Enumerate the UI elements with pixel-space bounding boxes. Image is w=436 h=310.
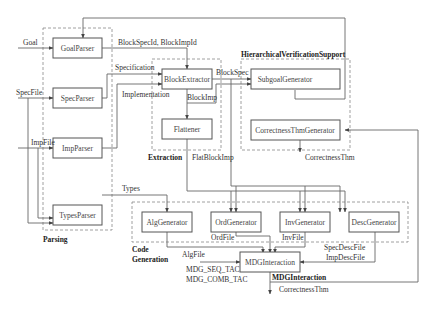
- types-parser-label: TypesParser: [59, 211, 96, 220]
- implementation-label: Implementation: [122, 90, 170, 99]
- alg-generator-label: AlgGenerator: [146, 218, 188, 227]
- impfile-to-types-edge: [38, 148, 53, 218]
- mdg-interaction-label: MDGInteraction: [245, 258, 295, 267]
- blockimp-label: BlockImp: [187, 93, 217, 102]
- specdescfile-label: SpecDescFile: [324, 243, 366, 252]
- types-label: Types: [122, 184, 140, 193]
- subgoal-generator-label: SubgoalGenerator: [258, 75, 313, 84]
- goal-label: Goal: [23, 38, 38, 47]
- blockspec-label: BlockSpec: [216, 68, 249, 77]
- mdg-seq-tac-label: MDG_SEQ_TAC: [186, 265, 240, 274]
- specfile-label: SpecFile: [16, 88, 43, 97]
- spec-parser-label: SpecParser: [61, 94, 95, 103]
- flattener-label: Flattener: [174, 125, 201, 134]
- imp-parser-label: ImpParser: [62, 144, 93, 153]
- mdg-comb-tac-label: MDG_COMB_TAC: [186, 275, 248, 284]
- correctnessthm-top-label: CorrectnessThm: [305, 153, 355, 162]
- correctnessthm-bottom-label: CorrectnessThm: [279, 285, 329, 294]
- correctness-thm-generator-label: CorrectnessThmGenerator: [255, 126, 335, 135]
- ordfile-label: OrdFile: [211, 233, 235, 242]
- architecture-diagram: GoalParser SpecParser ImpParser TypesPar…: [0, 0, 436, 310]
- desc-generator-label: DescGenerator: [352, 218, 397, 227]
- flatblockimp-label: FlatBlockImp: [192, 153, 234, 162]
- goal-parser-label: GoalParser: [61, 44, 95, 53]
- block-extractor-label: BlockExtractor: [164, 75, 210, 84]
- algfile-label: AlgFile: [182, 250, 206, 259]
- specfile-to-types-edge: [28, 98, 53, 223]
- codegen-group-label-1: Code: [132, 245, 149, 254]
- ordfile-edge: [236, 232, 270, 253]
- parsing-group-label: Parsing: [43, 235, 68, 244]
- mdg-group-label: MDGInteraction: [272, 273, 327, 282]
- specification-label: Specification: [115, 63, 155, 72]
- extraction-group-label: Extraction: [148, 153, 183, 162]
- impdescfile-label: ImpDescFile: [326, 253, 365, 262]
- blockspecid-label: BlockSpecId, BlockImpId: [118, 38, 197, 47]
- impfile-label: ImpFile: [31, 138, 55, 147]
- inv-generator-label: InvGenerator: [285, 218, 325, 227]
- ord-generator-label: OrdGenerator: [215, 218, 257, 227]
- codegen-group-label-2: Generation: [132, 255, 169, 264]
- invfile-label: InvFile: [282, 233, 304, 242]
- hierarchical-group-label: HierarchicalVerificationSupport: [241, 50, 346, 59]
